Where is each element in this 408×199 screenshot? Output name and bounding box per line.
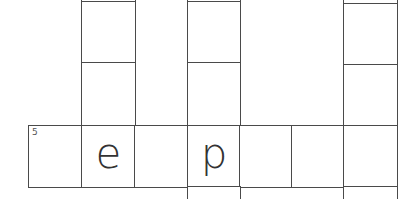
- grid-cell-5-2[interactable]: e: [81, 125, 136, 188]
- grid-cell[interactable]: [81, 62, 136, 127]
- grid-cell[interactable]: [81, 1, 136, 64]
- grid-cell-5-3[interactable]: [134, 125, 189, 188]
- grid-cell-5-1[interactable]: 5: [28, 125, 83, 188]
- cell-letter: e: [82, 126, 135, 187]
- grid-cell-5-7[interactable]: [343, 125, 398, 188]
- clue-number: 5: [32, 127, 38, 137]
- grid-cell-5-5[interactable]: [239, 125, 293, 188]
- cell-letter: p: [188, 126, 240, 187]
- grid-cell-5-4[interactable]: p: [187, 125, 241, 188]
- grid-cell[interactable]: [343, 3, 398, 66]
- grid-cell-5-6[interactable]: [291, 125, 345, 188]
- grid-cell[interactable]: [187, 62, 241, 127]
- grid-cell[interactable]: [187, 186, 241, 199]
- grid-cell[interactable]: [187, 1, 241, 64]
- grid-cell[interactable]: [343, 186, 398, 199]
- grid-cell[interactable]: [343, 64, 398, 127]
